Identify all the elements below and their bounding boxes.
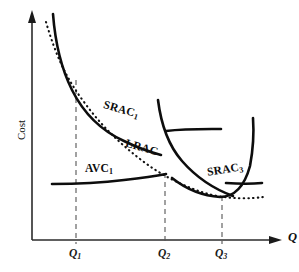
curve-srac2 <box>158 100 233 196</box>
x-tick-q1-sub: 1 <box>77 252 81 261</box>
x-axis-label: Q <box>288 231 297 244</box>
curve-label-avc1: AVC1 <box>85 163 113 175</box>
curve-avc2 <box>166 129 221 131</box>
cost-curves-figure: Cost Q SRAC1 LRAC AVC1 SRAC3 Q1 Q2 Q3 <box>0 0 299 272</box>
curve-label-avc1-sub: 1 <box>109 167 113 176</box>
curve-srac1 <box>53 14 161 155</box>
curve-label-avc1-text: AVC <box>85 162 109 174</box>
x-axis-label-text: Q <box>288 230 297 244</box>
y-axis <box>28 10 36 240</box>
y-axis-label: Cost <box>16 120 27 140</box>
x-tick-q1: Q1 <box>69 248 81 260</box>
y-axis-label-text: Cost <box>15 120 27 140</box>
curve-avc3 <box>226 183 262 184</box>
x-tick-q2: Q2 <box>158 248 170 260</box>
x-tick-q2-sub: 2 <box>166 252 170 261</box>
chart-canvas <box>0 0 299 272</box>
x-tick-q3: Q3 <box>215 248 227 260</box>
x-axis <box>32 236 282 244</box>
x-tick-q3-sub: 3 <box>223 252 227 261</box>
